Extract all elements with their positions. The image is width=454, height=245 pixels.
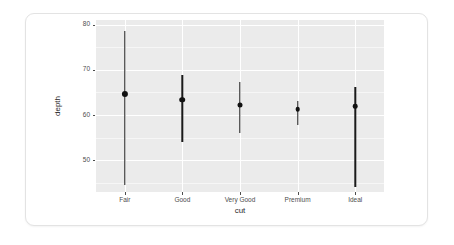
x-axis-tick-label: Fair xyxy=(119,197,130,204)
y-axis-tick-label: 70 xyxy=(83,66,90,73)
pointrange-line xyxy=(182,75,183,142)
y-axis-title: depth xyxy=(54,96,62,116)
x-axis-tick-label: Premium xyxy=(285,197,311,204)
chart-plot-area: 50607080 FairGoodVery GoodPremiumIdeal c… xyxy=(0,0,454,245)
x-axis-tick-mark xyxy=(355,192,356,195)
screenshot-root: 50607080 FairGoodVery GoodPremiumIdeal c… xyxy=(0,0,454,245)
x-axis-tick-label: Ideal xyxy=(348,197,362,204)
x-axis-tick-mark xyxy=(125,192,126,195)
pointrange-line xyxy=(354,87,355,187)
pointrange-point xyxy=(295,107,300,112)
x-axis-tick-label: Good xyxy=(174,197,190,204)
pointrange-point xyxy=(238,103,243,108)
pointrange-line xyxy=(297,101,298,125)
x-axis-tick-mark xyxy=(240,192,241,195)
y-axis-tick-mark xyxy=(93,70,96,71)
y-axis-tick-mark xyxy=(93,115,96,116)
x-axis-tick-mark xyxy=(182,192,183,195)
y-axis-tick-label: 80 xyxy=(83,21,90,28)
pointrange-point xyxy=(353,104,358,109)
x-axis-tick-mark xyxy=(298,192,299,195)
y-axis-tick-mark xyxy=(93,25,96,26)
pointrange-line xyxy=(124,31,125,185)
pointrange-point xyxy=(180,97,186,103)
y-axis-tick-label: 50 xyxy=(83,157,90,164)
y-axis-tick-label: 60 xyxy=(83,112,90,119)
x-axis-tick-label: Very Good xyxy=(225,197,256,204)
y-axis-tick-mark xyxy=(93,160,96,161)
x-axis-title: cut xyxy=(96,207,384,215)
